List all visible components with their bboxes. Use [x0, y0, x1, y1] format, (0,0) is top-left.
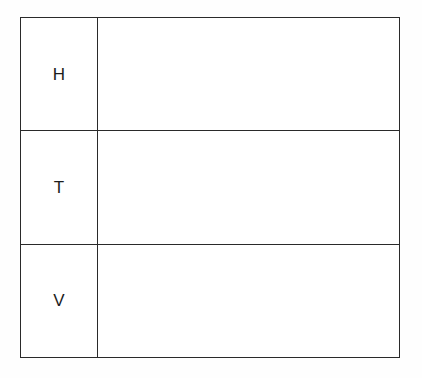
page-canvas: H T V	[0, 0, 422, 378]
table-cell-content	[98, 18, 399, 130]
row-label-text: H	[53, 66, 65, 83]
table-cell-label: T	[21, 131, 98, 243]
table-row: H	[21, 18, 399, 131]
table-cell-content	[98, 245, 399, 357]
table-row: V	[21, 245, 399, 357]
table-row: T	[21, 131, 399, 244]
table-cell-label: V	[21, 245, 98, 357]
table-cell-label: H	[21, 18, 98, 130]
three-row-table: H T V	[20, 17, 400, 358]
row-label-text: T	[54, 179, 65, 196]
row-label-text: V	[53, 292, 65, 309]
table-cell-content	[98, 131, 399, 243]
